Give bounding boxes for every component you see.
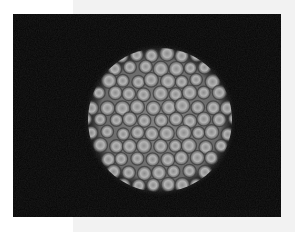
capsomere — [147, 179, 160, 192]
capsomere — [110, 140, 124, 154]
capsomere — [154, 114, 168, 128]
capsomere — [146, 101, 160, 115]
capsomere — [184, 62, 197, 75]
capsomere — [115, 153, 128, 166]
capsomere — [169, 112, 183, 126]
capsomere — [132, 75, 145, 88]
capsomere — [101, 125, 114, 138]
capsomere — [122, 166, 136, 180]
capsomere — [204, 125, 219, 140]
capsomere — [197, 112, 211, 126]
capsomere — [183, 164, 196, 177]
virus-particle-figure — [13, 14, 281, 217]
capsomere — [93, 138, 108, 153]
capsomere — [167, 165, 180, 178]
capsomere — [123, 112, 137, 126]
capsomere — [152, 165, 167, 180]
capsomere — [131, 126, 145, 140]
capsomere — [175, 98, 190, 113]
capsomere — [197, 86, 210, 99]
capsomere — [122, 87, 136, 101]
capsomere — [123, 61, 136, 74]
capsomere — [205, 151, 218, 164]
capsomere — [154, 139, 168, 153]
capsomere — [212, 113, 226, 127]
capsomere — [153, 86, 168, 101]
capsomere — [94, 113, 107, 126]
capsomere — [139, 60, 152, 73]
virus-micrograph — [13, 14, 281, 217]
capsomere — [110, 114, 123, 127]
capsomere — [190, 73, 203, 86]
capsomere — [116, 74, 129, 87]
capsomere — [144, 73, 159, 88]
capsomere — [109, 86, 123, 100]
capsomere — [117, 128, 130, 141]
capsomere — [131, 152, 144, 165]
capsomere — [146, 153, 159, 166]
capsomere — [122, 139, 136, 153]
capsomere — [136, 138, 151, 153]
capsomere — [174, 151, 188, 165]
capsomere — [192, 126, 205, 139]
capsomere — [161, 177, 175, 191]
capsomere — [190, 151, 204, 165]
